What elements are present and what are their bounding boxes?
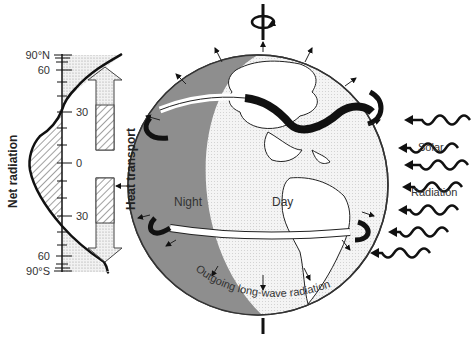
tick-60N: 60: [10, 65, 50, 76]
surplus-region: [29, 104, 62, 226]
diagram-canvas: Outgoing long-wave radiation: [0, 0, 471, 338]
day-label: Day: [272, 196, 293, 208]
night-label: Night: [174, 196, 202, 208]
tick-90N: 90°N: [10, 50, 50, 61]
heat-transport-label: Heat transport: [124, 128, 138, 210]
heat-transport-north-arrow: [88, 67, 122, 150]
tick-0: 0: [76, 158, 82, 169]
tick-90S: 90°S: [10, 266, 50, 277]
heat-transport-south-arrow: [88, 178, 122, 262]
tick-60S: 60: [10, 251, 50, 262]
tick-30S: 30: [76, 211, 88, 222]
net-radiation-label: Net radiation: [6, 135, 20, 208]
radiation-label: Radiation: [411, 187, 457, 198]
solar-label: Solar: [418, 142, 444, 153]
globe: [116, 4, 388, 334]
tick-30N: 30: [76, 107, 88, 118]
